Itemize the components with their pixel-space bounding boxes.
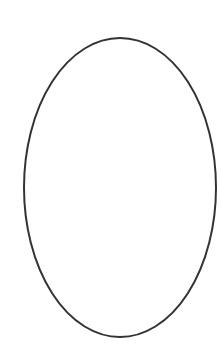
ellipse-shape [24, 38, 216, 337]
canvas [0, 0, 221, 350]
